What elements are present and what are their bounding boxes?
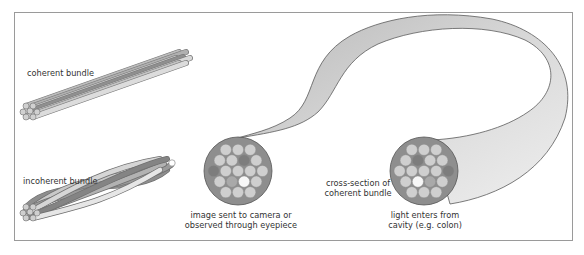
label-incoherent-bundle: incoherent bundle <box>23 176 98 186</box>
coherent-bundle-illustration <box>20 52 190 120</box>
cross-section-camera-end <box>204 137 272 205</box>
optical-fiber <box>412 155 423 166</box>
optical-fiber <box>418 144 429 155</box>
optical-fiber <box>257 165 268 176</box>
fiber-end <box>23 215 29 221</box>
optical-fiber <box>232 165 243 176</box>
fiber-end <box>30 114 36 120</box>
fiber-end <box>169 160 175 166</box>
incoherent-bundle-illustration <box>20 159 175 221</box>
fiber-rod <box>30 57 183 111</box>
optical-fiber <box>400 176 411 187</box>
fiber-end <box>23 103 29 109</box>
cross-section-cavity-end <box>390 137 458 205</box>
optical-fiber <box>400 155 411 166</box>
label-coherent-bundle: coherent bundle <box>27 68 94 78</box>
label-camera-end-line-2: observed through eyepiece <box>185 220 297 230</box>
fiber-end <box>34 109 40 115</box>
optical-fiber <box>418 187 429 198</box>
optical-fiber <box>437 155 448 166</box>
fiber-end <box>30 215 36 221</box>
optical-fiber <box>431 144 442 155</box>
optical-fiber <box>245 165 256 176</box>
optical-fiber <box>406 144 417 155</box>
fiber-end <box>27 209 33 215</box>
fiber-end <box>34 210 40 216</box>
label-coherent-bundle-text: coherent bundle <box>27 68 94 78</box>
optical-fiber <box>232 144 243 155</box>
label-cavity-end-line-1: light enters from <box>388 210 462 220</box>
optical-fiber <box>437 176 448 187</box>
optical-fiber <box>220 187 231 198</box>
optical-fiber <box>245 144 256 155</box>
optical-fiber <box>425 155 436 166</box>
optical-fiber <box>220 165 231 176</box>
fiber-end <box>27 108 33 114</box>
label-cavity-end-line-2: cavity (e.g. colon) <box>388 220 462 230</box>
optical-fiber <box>431 187 442 198</box>
optical-fiber <box>431 165 442 176</box>
label-camera-end-line-1: image sent to camera or <box>185 210 297 220</box>
label-cross-section: cross-section of coherent bundle <box>324 178 391 198</box>
optical-fiber <box>220 144 231 155</box>
optical-fiber <box>239 155 250 166</box>
optical-fiber <box>214 155 225 166</box>
label-cavity-end: light enters from cavity (e.g. colon) <box>388 210 462 230</box>
label-incoherent-bundle-text: incoherent bundle <box>23 176 98 186</box>
optical-fiber <box>394 165 405 176</box>
optical-fiber <box>226 155 237 166</box>
optical-fiber <box>232 187 243 198</box>
optical-fiber <box>406 165 417 176</box>
optical-fiber <box>418 165 429 176</box>
optical-fiber <box>239 176 250 187</box>
label-cross-section-line-1: cross-section of <box>324 178 391 188</box>
optical-fiber <box>412 176 423 187</box>
label-cross-section-line-2: coherent bundle <box>324 188 391 198</box>
optical-fiber <box>226 176 237 187</box>
optical-fiber <box>251 176 262 187</box>
fiber-end <box>23 114 29 120</box>
fiber-end <box>23 204 29 210</box>
optical-fiber <box>245 187 256 198</box>
optical-fiber <box>214 176 225 187</box>
optical-fiber <box>425 176 436 187</box>
optical-fiber <box>251 155 262 166</box>
label-camera-end: image sent to camera or observed through… <box>185 210 297 230</box>
fiber-strand <box>26 159 167 218</box>
optical-fiber <box>208 165 219 176</box>
optical-fiber <box>406 187 417 198</box>
optical-fiber <box>443 165 454 176</box>
